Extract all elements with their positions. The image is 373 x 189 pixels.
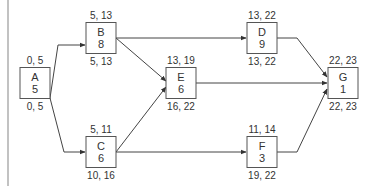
node-id: E (177, 71, 184, 83)
node-duration: 1 (340, 83, 346, 95)
edge-a-c (50, 98, 85, 152)
node-e: E613, 1916, 22 (166, 55, 196, 112)
node-early-times: 0, 5 (27, 55, 44, 66)
node-late-times: 13, 22 (248, 56, 276, 67)
node-late-times: 10, 16 (87, 170, 115, 181)
nodes: A50, 50, 5B85, 135, 13C65, 1110, 16E613,… (20, 10, 358, 181)
node-late-times: 5, 13 (90, 56, 113, 67)
node-f: F311, 1419, 22 (247, 124, 277, 181)
edge-c-e (116, 87, 166, 152)
node-c: C65, 1110, 16 (86, 124, 116, 181)
node-duration: 9 (259, 38, 265, 50)
node-early-times: 11, 14 (248, 124, 275, 135)
node-early-times: 22, 23 (329, 55, 357, 66)
node-id: F (259, 140, 266, 152)
node-id: D (258, 26, 266, 38)
edge-b-e (116, 38, 166, 81)
network-diagram: A50, 50, 5B85, 135, 13C65, 1110, 16E613,… (0, 0, 373, 189)
node-g: G122, 2322, 23 (328, 55, 358, 112)
node-id: C (97, 140, 105, 152)
node-early-times: 5, 13 (90, 10, 113, 21)
edge-f-g (277, 89, 327, 152)
node-id: G (339, 71, 348, 83)
node-early-times: 13, 22 (248, 10, 276, 21)
edge-a-b (50, 45, 85, 98)
node-a: A50, 50, 5 (20, 55, 50, 112)
node-duration: 6 (178, 83, 184, 95)
node-b: B85, 135, 13 (86, 10, 116, 67)
node-early-times: 13, 19 (167, 55, 195, 66)
node-late-times: 0, 5 (27, 101, 44, 112)
node-duration: 3 (259, 152, 265, 164)
node-late-times: 16, 22 (167, 101, 195, 112)
node-duration: 6 (98, 152, 104, 164)
node-id: B (97, 26, 104, 38)
node-late-times: 22, 23 (329, 101, 357, 112)
node-duration: 5 (32, 83, 38, 95)
node-d: D913, 2213, 22 (247, 10, 277, 67)
node-duration: 8 (98, 38, 104, 50)
node-early-times: 5, 11 (90, 124, 112, 135)
edge-d-g (277, 38, 327, 77)
node-late-times: 19, 22 (248, 170, 276, 181)
node-id: A (31, 71, 39, 83)
